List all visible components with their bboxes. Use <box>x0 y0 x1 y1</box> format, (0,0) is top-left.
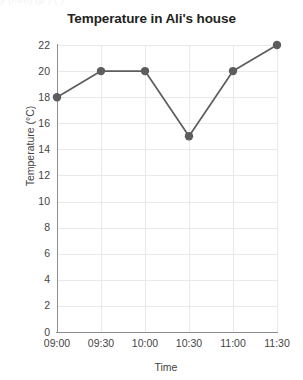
y-tick-label: 10 <box>8 196 50 206</box>
x-tick-label: 11:30 <box>253 338 301 349</box>
data-point <box>97 67 105 75</box>
y-tick-label: 18 <box>8 92 50 102</box>
y-tick-label: 20 <box>8 66 50 76</box>
data-point <box>141 67 149 75</box>
data-point <box>273 41 281 49</box>
temperature-line-chart: y (mm) (p ) ( ) Temperature in Ali's hou… <box>0 0 303 380</box>
y-tick-label: 16 <box>8 118 50 128</box>
y-tick-label: 4 <box>8 274 50 284</box>
data-series-layer <box>0 0 303 380</box>
x-tick-label: 09:00 <box>33 338 81 349</box>
data-point <box>185 132 193 140</box>
x-tick-label: 11:00 <box>209 338 257 349</box>
x-tick-label: 10:00 <box>121 338 169 349</box>
x-tick-label: 10:30 <box>165 338 213 349</box>
y-tick-label: 8 <box>8 222 50 232</box>
x-tick-label: 09:30 <box>77 338 125 349</box>
data-point <box>53 93 61 101</box>
y-tick-label: 12 <box>8 170 50 180</box>
series-markers-temperature <box>53 41 281 141</box>
data-point <box>229 67 237 75</box>
y-tick-label: 22 <box>8 40 50 50</box>
y-tick-label: 6 <box>8 248 50 258</box>
series-line-temperature <box>57 45 277 136</box>
y-tick-label: 0 <box>8 327 50 337</box>
y-tick-label: 2 <box>8 300 50 310</box>
y-tick-label: 14 <box>8 144 50 154</box>
